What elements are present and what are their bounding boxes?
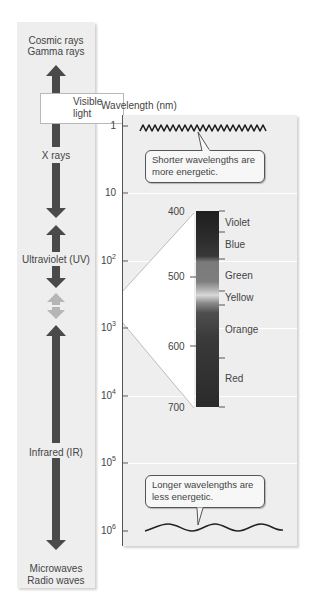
long-wavelength-wave-icon <box>0 0 317 602</box>
